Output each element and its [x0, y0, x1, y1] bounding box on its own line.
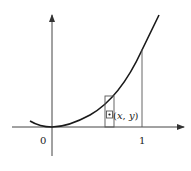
point-label-close: )	[135, 110, 139, 121]
x-tick-one-label: 1	[139, 135, 145, 146]
function-curve	[30, 15, 159, 127]
point-label: (x, y)	[113, 110, 139, 121]
point-dot	[108, 113, 110, 115]
origin-label: 0	[40, 135, 46, 146]
diagram-canvas: 0 1 (x, y)	[0, 0, 191, 171]
